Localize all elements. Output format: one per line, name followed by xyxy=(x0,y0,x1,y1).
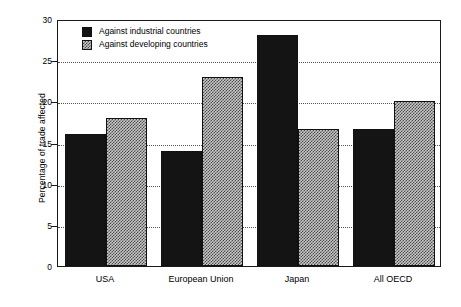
y-tick-mark xyxy=(51,61,57,62)
bars-layer xyxy=(58,21,440,266)
y-tick-label: 25 xyxy=(12,56,52,66)
bar-usa-series-2 xyxy=(106,118,147,266)
bar-european-union-series-1 xyxy=(161,151,202,266)
y-tick-label: 15 xyxy=(12,139,52,149)
y-tick-mark xyxy=(51,226,57,227)
legend-swatch-icon xyxy=(82,40,92,50)
chart-figure: Percentage of trade affected Against ind… xyxy=(0,0,461,307)
bar-all-oecd-series-1 xyxy=(353,129,394,266)
x-tick-label: Japan xyxy=(285,274,310,284)
legend-swatch-icon xyxy=(82,27,92,37)
x-tick-label: All OECD xyxy=(374,274,413,284)
bar-japan-series-1 xyxy=(257,35,298,266)
y-tick-label: 5 xyxy=(12,221,52,231)
y-tick-mark xyxy=(51,102,57,103)
x-tick-label: European Union xyxy=(168,274,233,284)
legend-item: Against industrial countries xyxy=(82,26,208,37)
plot-area xyxy=(57,20,441,267)
bar-european-union-series-2 xyxy=(202,77,243,266)
bar-usa-series-1 xyxy=(65,134,106,266)
y-tick-label: 30 xyxy=(12,15,52,25)
bar-all-oecd-series-2 xyxy=(394,101,435,266)
x-tick-label: USA xyxy=(96,274,115,284)
y-tick-label: 10 xyxy=(12,180,52,190)
y-tick-mark xyxy=(51,144,57,145)
y-tick-mark xyxy=(51,185,57,186)
legend-label: Against developing countries xyxy=(99,39,208,50)
legend-item: Against developing countries xyxy=(82,39,208,50)
y-tick-label: 20 xyxy=(12,97,52,107)
chart-legend: Against industrial countriesAgainst deve… xyxy=(82,26,208,50)
bar-japan-series-2 xyxy=(298,129,339,266)
y-tick-label: 0 xyxy=(12,262,52,272)
legend-label: Against industrial countries xyxy=(99,26,201,37)
